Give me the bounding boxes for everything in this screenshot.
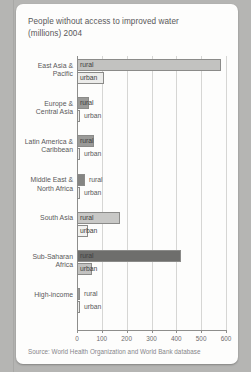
bar-row-urban: urban	[77, 225, 226, 237]
bar-label-rural: rural	[78, 97, 94, 109]
x-tick-600	[226, 330, 227, 333]
region-label: Middle East &North Africa	[16, 176, 73, 193]
x-tick-label-200: 200	[114, 335, 140, 342]
x-tick-100	[102, 330, 103, 333]
bar-row-urban: urban	[77, 110, 226, 122]
bar-label-urban: urban	[78, 225, 97, 237]
bar-label-urban: urban	[78, 72, 97, 84]
bar-label-urban: urban	[78, 263, 97, 275]
x-tick-500	[201, 330, 202, 333]
bar-label-rural: rural	[78, 212, 94, 224]
bar-label-urban: urban	[82, 110, 101, 122]
bar-row-urban: urban	[77, 187, 226, 199]
bar-urban	[77, 301, 80, 313]
bar-row-rural: rural	[77, 174, 226, 186]
figure-root: People without access to improved water(…	[0, 0, 251, 372]
x-tick-label-500: 500	[188, 335, 214, 342]
region-label: South Asia	[16, 214, 73, 222]
bar-row-urban: urban	[77, 148, 226, 160]
x-tick-label-600: 600	[213, 335, 238, 342]
region-label: High-income	[16, 291, 73, 299]
region-label: Sub-SaharanAfrica	[16, 253, 73, 270]
bar-label-urban: urban	[82, 301, 101, 313]
region-label: Latin America &Caribbean	[16, 138, 73, 155]
bar-label-rural: rural	[78, 250, 94, 262]
bar-row-urban: urban	[77, 72, 226, 84]
bar-urban	[77, 148, 80, 160]
bar-label-rural: rural	[78, 135, 94, 147]
bar-rural	[77, 59, 221, 71]
bar-label-urban: urban	[82, 187, 101, 199]
bar-row-urban: urban	[77, 263, 226, 275]
x-tick-label-300: 300	[139, 335, 165, 342]
bar-row-rural: rural	[77, 288, 226, 300]
bar-label-rural: rural	[82, 288, 98, 300]
bar-rural	[77, 174, 85, 186]
chart-card: People without access to improved water(…	[16, 4, 238, 364]
x-tick-label-400: 400	[163, 335, 189, 342]
gridline-600	[226, 56, 227, 330]
x-tick-400	[176, 330, 177, 333]
bar-row-rural: rural	[77, 212, 226, 224]
bar-urban	[77, 187, 80, 199]
bar-row-rural: rural	[77, 135, 226, 147]
chart-title: People without access to improved water(…	[28, 16, 228, 39]
x-tick-label-0: 0	[64, 335, 90, 342]
region-label: Europe &Central Asia	[16, 100, 73, 117]
x-tick-label-100: 100	[89, 335, 115, 342]
bar-row-rural: rural	[77, 97, 226, 109]
x-tick-300	[152, 330, 153, 333]
source-note: Source: World Health Organization and Wo…	[28, 348, 200, 355]
bar-row-urban: urban	[77, 301, 226, 313]
bar-row-rural: rural	[77, 250, 226, 262]
bar-rural	[77, 288, 80, 300]
bar-label-rural: rural	[78, 59, 94, 71]
x-tick-200	[127, 330, 128, 333]
bar-urban	[77, 110, 80, 122]
bar-label-urban: urban	[82, 148, 101, 160]
x-tick-0	[77, 330, 78, 333]
bar-row-rural: rural	[77, 59, 226, 71]
region-label: East Asia &Pacific	[16, 62, 73, 79]
plot-area: East Asia &PacificruralurbanEurope &Cent…	[77, 56, 226, 330]
bar-label-rural: rural	[87, 174, 103, 186]
page-seam-divider	[13, 0, 14, 372]
